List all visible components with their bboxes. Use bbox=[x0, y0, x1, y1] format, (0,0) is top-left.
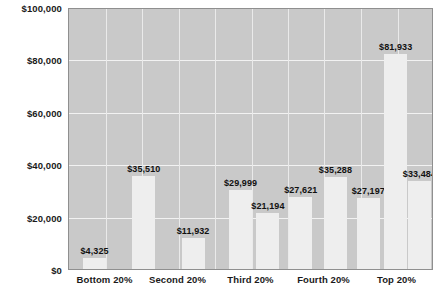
bar bbox=[229, 190, 252, 269]
y-tick-label: $80,000 bbox=[27, 55, 62, 66]
bar-chart: $0$20,000$40,000$60,000$80,000$100,000 $… bbox=[0, 0, 441, 305]
bar-value-label: $11,932 bbox=[177, 226, 210, 236]
y-tick-label: $20,000 bbox=[27, 212, 62, 223]
bar-value-label: $21,194 bbox=[251, 201, 284, 211]
gridline-horizontal bbox=[69, 60, 432, 61]
gridline-horizontal bbox=[69, 113, 432, 114]
bar-value-label: $33,484 bbox=[403, 169, 433, 179]
y-tick-label: $60,000 bbox=[27, 107, 62, 118]
bar bbox=[324, 177, 347, 269]
bar-value-label: $35,510 bbox=[127, 164, 160, 174]
x-tick-label: Fourth 20% bbox=[297, 274, 350, 285]
bar-value-label: $81,933 bbox=[379, 42, 412, 52]
gridline-vertical bbox=[215, 9, 216, 269]
plot-inner: $4,325$35,510$11,932$29,999$21,194$27,62… bbox=[69, 9, 432, 269]
bar-value-label: $35,288 bbox=[319, 165, 352, 175]
bar bbox=[182, 238, 205, 269]
bar-value-label: $27,197 bbox=[352, 186, 385, 196]
bar bbox=[408, 181, 431, 269]
x-tick-label: Second 20% bbox=[149, 274, 206, 285]
bar bbox=[357, 198, 380, 269]
y-tick-label: $100,000 bbox=[22, 3, 62, 14]
x-axis: Bottom 20%Second 20%Third 20%Fourth 20%T… bbox=[68, 272, 433, 294]
bar bbox=[256, 213, 279, 269]
gridline-vertical bbox=[252, 9, 253, 269]
bar-value-label: $29,999 bbox=[224, 178, 257, 188]
y-axis: $0$20,000$40,000$60,000$80,000$100,000 bbox=[0, 0, 66, 305]
y-tick-label: $40,000 bbox=[27, 160, 62, 171]
gridline-vertical bbox=[106, 9, 107, 269]
bar bbox=[132, 176, 155, 269]
plot-area: $4,325$35,510$11,932$29,999$21,194$27,62… bbox=[68, 8, 433, 270]
bar-value-label: $4,325 bbox=[80, 246, 108, 256]
gridline-horizontal bbox=[69, 165, 432, 166]
bar bbox=[384, 54, 407, 269]
bar bbox=[289, 197, 312, 269]
y-tick-label: $0 bbox=[51, 265, 62, 276]
x-tick-label: Bottom 20% bbox=[77, 274, 133, 285]
x-tick-label: Third 20% bbox=[227, 274, 273, 285]
bar-value-label: $27,621 bbox=[284, 185, 317, 195]
x-tick-label: Top 20% bbox=[377, 274, 416, 285]
bar bbox=[83, 258, 106, 269]
